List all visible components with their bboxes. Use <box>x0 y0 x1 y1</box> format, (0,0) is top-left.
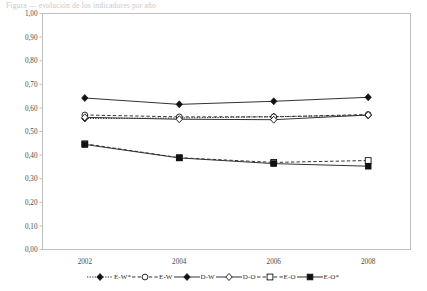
legend-marker-open-diamond-icon <box>216 272 242 282</box>
legend-label: D-W <box>200 273 216 281</box>
y-tick-label: 0,90 <box>25 34 38 42</box>
legend-label: E-O* <box>323 273 341 281</box>
series-lines-group <box>85 97 368 166</box>
chart-figure: Figura — evolución de los indicadores po… <box>0 0 427 291</box>
series-line-e-o <box>85 144 368 163</box>
legend-marker <box>267 274 273 280</box>
legend-item-e-w[interactable]: E-W <box>132 272 174 282</box>
data-point-d-w-2002 <box>82 94 88 101</box>
y-axis-labels: 0,000,100,200,300,400,500,600,700,800,90… <box>25 10 38 254</box>
data-point-e-ostar-2006 <box>271 161 277 167</box>
legend-marker <box>183 274 189 281</box>
x-tick-label: 2006 <box>267 258 282 266</box>
legend-marker <box>142 274 148 280</box>
legend-item-d-o[interactable]: D-O <box>216 272 257 282</box>
series-line-d-w <box>85 97 368 104</box>
legend-marker <box>226 274 232 281</box>
series-markers-group <box>82 94 372 169</box>
y-tick-label: 0,30 <box>25 175 38 183</box>
legend-item-d-w[interactable]: D-W <box>174 272 216 282</box>
y-tick-label: 1,00 <box>25 10 38 18</box>
plot-area-container: 0,000,100,200,300,400,500,600,700,800,90… <box>0 8 427 266</box>
legend-item-e-ostar[interactable]: E-O* <box>297 272 341 282</box>
y-tick-label: 0,40 <box>25 152 38 160</box>
data-point-e-o-2008 <box>365 158 371 164</box>
x-tick-label: 2008 <box>361 258 376 266</box>
legend-label: D-O <box>242 273 257 281</box>
legend-marker-filled-diamond-icon <box>87 272 113 282</box>
y-tick-label: 0,20 <box>25 199 38 207</box>
series-line-e-w <box>85 115 368 117</box>
data-point-e-ostar-2004 <box>176 155 182 161</box>
data-point-d-w-2006 <box>271 98 277 105</box>
x-tick-label: 2002 <box>78 258 93 266</box>
y-tick-label: 0,60 <box>25 105 38 113</box>
plot-frame <box>43 14 411 250</box>
data-point-e-ostar-2002 <box>82 142 88 148</box>
y-tick-label: 0,70 <box>25 81 38 89</box>
legend-label: E-W <box>158 273 174 281</box>
y-tick-label: 0,10 <box>25 223 38 231</box>
legend-marker-open-square-icon <box>257 272 283 282</box>
series-line-e-ostar <box>85 144 368 166</box>
legend-marker-filled-diamond-icon <box>174 272 200 282</box>
legend-marker-filled-square-icon <box>297 272 323 282</box>
y-tick-label: 0,80 <box>25 57 38 65</box>
legend-label: E-W* <box>113 273 132 281</box>
data-point-d-w-2004 <box>176 101 182 108</box>
y-tick-label: 0,00 <box>25 246 38 254</box>
x-axis-labels: 2002200420062008 <box>78 258 376 266</box>
legend-item-e-o[interactable]: E-O <box>257 272 297 282</box>
x-tick-label: 2004 <box>172 258 187 266</box>
legend-item-e-wstar[interactable]: E-W* <box>87 272 132 282</box>
legend-label: E-O <box>283 273 297 281</box>
legend-marker <box>97 274 103 281</box>
data-point-e-ostar-2008 <box>365 163 371 169</box>
y-tick-label: 0,50 <box>25 128 38 136</box>
line-chart-svg: 0,000,100,200,300,400,500,600,700,800,90… <box>0 8 427 266</box>
legend-marker <box>307 274 313 280</box>
chart-legend: E-W*E-WD-WD-OE-OE-O* <box>0 266 427 288</box>
legend-marker-open-circle-icon <box>132 272 158 282</box>
data-point-d-w-2008 <box>365 94 371 101</box>
